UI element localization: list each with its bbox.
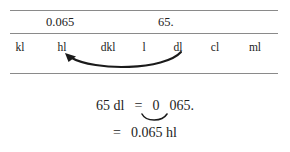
horizontal-rule-bottom xyxy=(10,73,278,74)
equation-equals-sign-2: = xyxy=(113,125,121,140)
equation-digit-before-gap: 0 xyxy=(152,98,159,113)
value-label-right: 65. xyxy=(158,14,174,31)
horizontal-rule-top xyxy=(10,10,278,11)
metric-conversion-figure: 0.065 65. kl hl dkl l dl cl ml 65 dl = 0… xyxy=(0,0,290,152)
equation-digits-after-gap: 065. xyxy=(169,98,194,113)
equation-line-1: 65 dl = 0 065. xyxy=(0,98,290,114)
equation-left-side: 65 dl xyxy=(96,98,124,113)
horizontal-rule-middle xyxy=(10,33,278,34)
equation-line-1-content: 65 dl = 0 065. xyxy=(96,98,194,114)
equation-equals-sign-1: = xyxy=(134,98,142,113)
curved-left-arrow-icon xyxy=(0,44,290,74)
equation-result: 0.065 hl xyxy=(131,125,177,140)
equation-line-2: = 0.065 hl xyxy=(0,125,290,141)
decimal-shift-tie-icon xyxy=(140,113,170,123)
value-label-left: 0.065 xyxy=(46,14,74,31)
